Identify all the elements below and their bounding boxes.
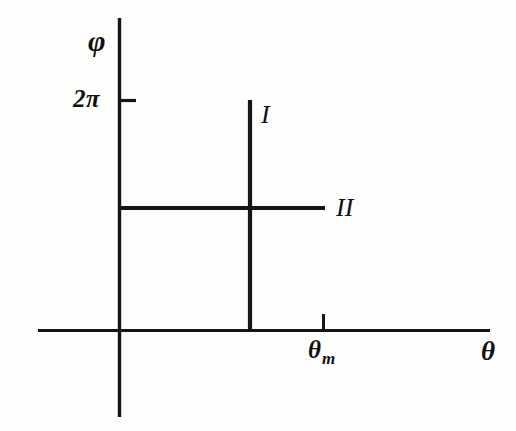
theta-m-base: θ [308,336,321,363]
branch-i-label: I [261,102,270,128]
y-tick-2pi-label: 2π [73,86,100,111]
diagram-canvas [0,0,516,431]
theta-axis-label: θ [481,338,495,365]
branch-ii-label: II [336,195,353,221]
theta-m-subscript: m [322,349,335,368]
phi-axis-label: φ [88,26,106,56]
phase-diagram-figure: φ 2π I II θm θ [0,0,516,431]
x-tick-theta-m-label: θm [308,337,334,362]
